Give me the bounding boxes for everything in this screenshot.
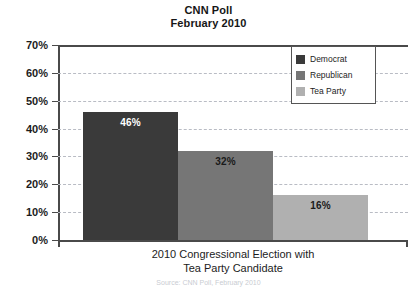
x-axis-tick-left xyxy=(58,240,60,247)
bar-tea-party[interactable]: 16% xyxy=(273,195,368,240)
y-tick-label-40: 40% xyxy=(2,124,48,135)
legend: Democrat Republican Tea Party xyxy=(291,46,376,104)
x-axis-caption-line-1: 2010 Congressional Election with xyxy=(58,247,408,261)
source-note: Source: CNN Poll, February 2010 xyxy=(0,279,417,287)
chart-title-line-1: CNN Poll xyxy=(0,4,417,17)
y-tick-label-70: 70% xyxy=(2,40,48,51)
y-tick-label-10: 10% xyxy=(2,207,48,218)
x-axis-caption-line-2: Tea Party Candidate xyxy=(58,261,408,275)
legend-label-democrat: Democrat xyxy=(310,54,347,64)
bar-value-tea-party: 16% xyxy=(273,200,368,211)
y-tick-label-50: 50% xyxy=(2,96,48,107)
legend-item-tea-party[interactable]: Tea Party xyxy=(296,83,370,99)
legend-item-democrat[interactable]: Democrat xyxy=(296,51,370,67)
y-tick-label-60: 60% xyxy=(2,68,48,79)
chart-title: CNN Poll February 2010 xyxy=(0,4,417,30)
y-tick-label-0: 0% xyxy=(2,235,48,246)
bar-value-republican: 32% xyxy=(178,156,273,167)
x-axis-caption: 2010 Congressional Election with Tea Par… xyxy=(58,247,408,275)
legend-swatch-icon-democrat xyxy=(296,55,305,64)
bar-democrat[interactable]: 46% xyxy=(83,112,178,240)
bar-republican[interactable]: 32% xyxy=(178,151,273,240)
legend-label-republican: Republican xyxy=(310,70,353,80)
legend-item-republican[interactable]: Republican xyxy=(296,67,370,83)
x-axis-tick-right xyxy=(406,240,408,247)
y-tick-label-30: 30% xyxy=(2,151,48,162)
legend-swatch-icon-tea-party xyxy=(296,87,305,96)
legend-swatch-icon-republican xyxy=(296,71,305,80)
chart-title-line-2: February 2010 xyxy=(0,17,417,30)
cnn-poll-bar-chart: CNN Poll February 2010 70% 60% 50% 40% 3… xyxy=(0,0,417,287)
bar-value-democrat: 46% xyxy=(83,117,178,128)
legend-label-tea-party: Tea Party xyxy=(310,86,346,96)
x-axis-line xyxy=(58,240,408,242)
y-tick-label-20: 20% xyxy=(2,179,48,190)
